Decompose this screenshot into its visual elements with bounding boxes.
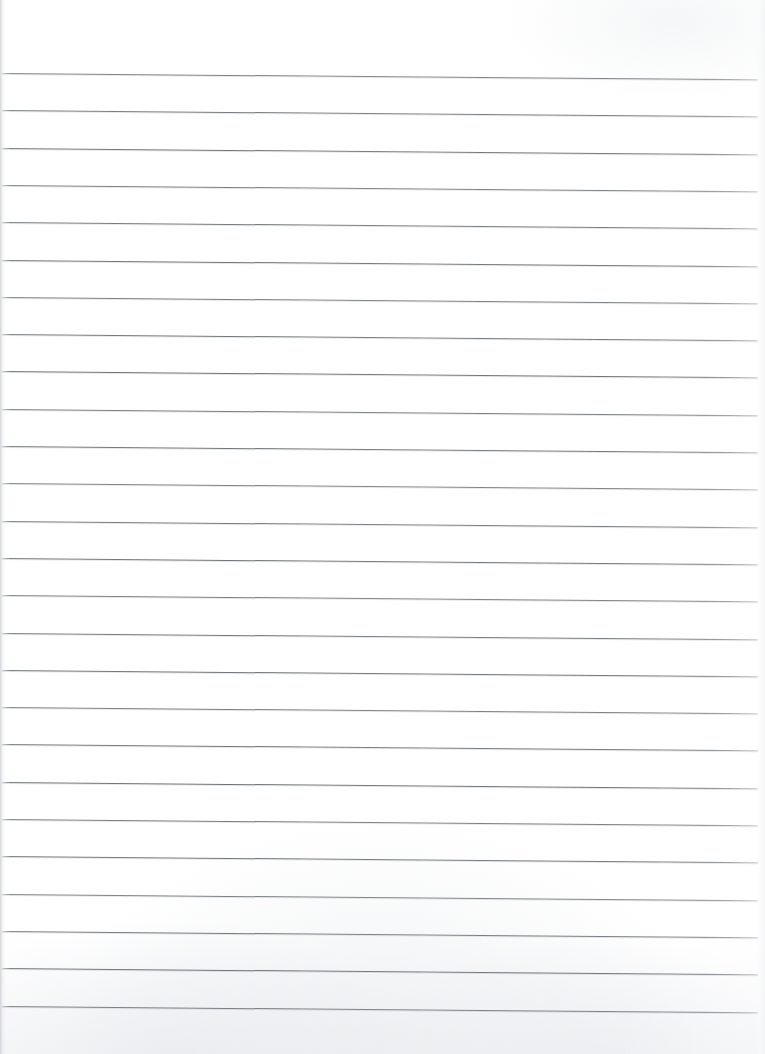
scanned-page	[0, 0, 765, 1054]
page-writing-area	[0, 0, 765, 1054]
